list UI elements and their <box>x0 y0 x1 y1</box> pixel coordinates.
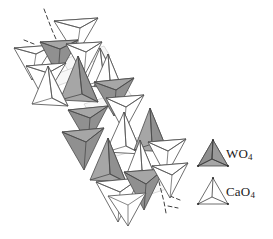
legend-label-wo4-subscript: 4 <box>248 152 253 162</box>
figure-root: .edge { stroke: #4a4a4a; stroke-width: 0… <box>0 0 273 239</box>
crystal-structure-drawing: .edge { stroke: #4a4a4a; stroke-width: 0… <box>0 0 273 239</box>
legend-label-wo4: WO4 <box>226 147 253 162</box>
legend-label-wo4-text: WO <box>226 146 248 161</box>
legend-label-cao4-subscript: 4 <box>250 190 255 200</box>
legend-label-cao4-text: CaO <box>226 184 250 199</box>
legend-label-cao4: CaO4 <box>226 185 255 200</box>
